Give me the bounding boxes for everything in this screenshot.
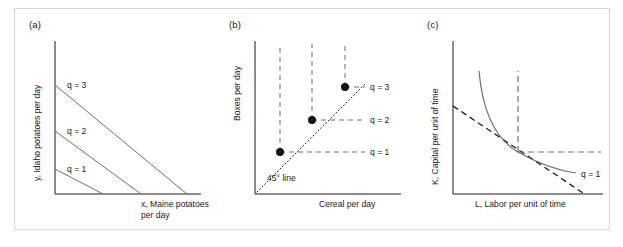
panel-b-label-q2: q = 2 xyxy=(370,115,389,125)
panel-b-corner-point-q1 xyxy=(276,148,284,156)
panel-b-corner-point-q3 xyxy=(341,83,349,91)
panel-b-label-q1: q = 1 xyxy=(370,147,389,157)
panel-a-label-q2: q = 2 xyxy=(67,126,86,136)
panel-a-isoquant-q3 xyxy=(55,85,187,194)
panel-c-isoquant-q1 xyxy=(479,71,576,173)
figure-container: (a) y, Idaho potatoes per day x, Maine p… xyxy=(0,0,623,247)
figure-frame: (a) y, Idaho potatoes per day x, Maine p… xyxy=(14,8,610,230)
panel-a-isoquant-q2 xyxy=(55,131,141,194)
panel-c-label-q1: q = 1 xyxy=(581,169,600,179)
panel-a-label-q1: q = 1 xyxy=(67,164,86,174)
panel-b-45-degree-annotation: 45° line xyxy=(267,173,296,183)
panel-c-plot xyxy=(413,9,611,231)
panel-a: (a) y, Idaho potatoes per day x, Maine p… xyxy=(15,9,215,231)
panel-c: (c) K, Capital per unit of time L, Labor… xyxy=(413,9,611,231)
panel-a-label-q3: q = 3 xyxy=(67,80,86,90)
panel-b: (b) Boxes per day Cereal per day xyxy=(215,9,413,231)
panel-b-corner-point-q2 xyxy=(308,116,316,124)
panel-a-plot xyxy=(15,9,215,231)
panel-b-label-q3: q = 3 xyxy=(370,82,389,92)
